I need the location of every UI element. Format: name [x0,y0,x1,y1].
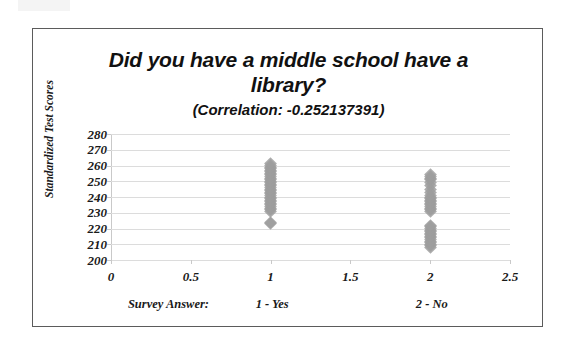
plot-wrapper: Standardized Test Scores 200210220230240… [33,29,544,328]
x-axis-caption: 1 - Yes [256,297,289,312]
gridline [111,197,510,198]
y-axis-title: Standardized Test Scores [43,75,55,203]
x-tick-label: 0 [81,269,141,285]
y-tick-label: 250 [88,175,108,188]
y-tick-label: 210 [88,238,108,251]
x-tick-label: 1.5 [320,269,380,285]
y-tick-label: 240 [88,191,108,204]
gridline [111,181,510,182]
x-tick-mark [271,260,272,264]
gridline [111,166,510,167]
gridline [111,213,510,214]
x-tick-mark [191,260,192,264]
x-tick-mark [430,260,431,264]
y-tick-mark [107,134,111,135]
plot-area [111,134,510,260]
x-tick-label: 1 [241,269,301,285]
y-tick-mark [107,181,111,182]
gridline [111,260,510,261]
x-tick-mark [510,260,511,264]
y-tick-label: 260 [88,159,108,172]
x-tick-mark [111,260,112,264]
gridline [111,229,510,230]
y-tick-mark [107,166,111,167]
y-tick-mark [107,229,111,230]
x-axis-caption-row: Survey Answer:1 - Yes2 - No [33,297,544,315]
y-tick-label: 270 [88,143,108,156]
y-tick-mark [107,197,111,198]
y-tick-label: 200 [88,254,108,267]
x-axis-caption: 2 - No [416,297,448,312]
gridline [111,134,510,135]
x-tick-label: 2.5 [480,269,540,285]
y-tick-mark [107,150,111,151]
x-tick-label: 2 [400,269,460,285]
y-tick-mark [107,213,111,214]
x-tick-label: 0.5 [161,269,221,285]
y-tick-label: 220 [88,222,108,235]
chart-container: Did you have a middle school have a libr… [32,28,543,327]
x-axis-caption: Survey Answer: [128,297,209,312]
gridline [111,150,510,151]
y-tick-label: 280 [88,128,108,141]
y-tick-label: 230 [88,206,108,219]
y-axis-tick-labels: 200210220230240250260270280 [65,134,107,260]
y-tick-mark [107,244,111,245]
x-tick-mark [350,260,351,264]
scan-artifact [18,0,70,11]
gridline [111,244,510,245]
